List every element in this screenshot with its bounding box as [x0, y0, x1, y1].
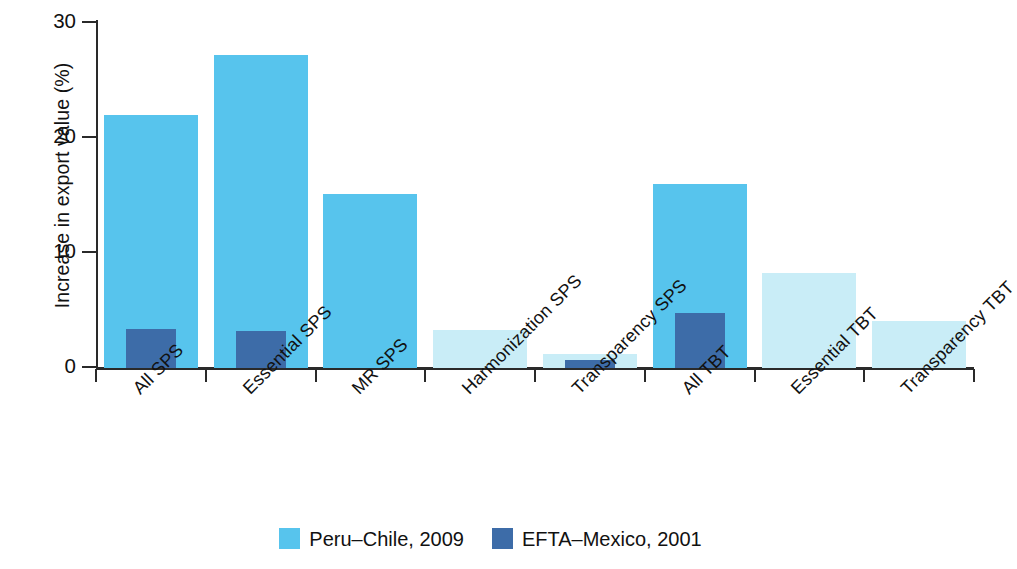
- y-axis-tick: [82, 366, 96, 368]
- legend-item: Peru–Chile, 2009: [279, 528, 464, 549]
- legend-swatch-icon: [492, 528, 513, 549]
- x-axis-tick: [534, 369, 536, 382]
- y-axis-title: Increase in export value (%): [51, 6, 74, 366]
- x-axis-tick: [863, 369, 865, 382]
- bar-series-peru-chile: [214, 55, 308, 368]
- x-axis-tick: [754, 369, 756, 382]
- legend-item: EFTA–Mexico, 2001: [492, 528, 702, 549]
- legend-swatch-icon: [279, 528, 300, 549]
- x-axis-tick: [95, 369, 97, 382]
- x-axis-tick: [644, 369, 646, 382]
- legend-label: EFTA–Mexico, 2001: [522, 529, 702, 549]
- y-axis-tick: [82, 136, 96, 138]
- x-axis-tick: [424, 369, 426, 382]
- x-axis-tick: [315, 369, 317, 382]
- x-axis-tick: [973, 369, 975, 382]
- y-axis-tick-label: 10: [18, 241, 76, 262]
- chart-legend: Peru–Chile, 2009EFTA–Mexico, 2001: [0, 528, 981, 549]
- x-axis-tick: [205, 369, 207, 382]
- y-axis-tick: [82, 21, 96, 23]
- y-axis-tick-label: 20: [18, 126, 76, 147]
- y-axis-tick-label: 30: [18, 11, 76, 32]
- y-axis-tick: [82, 251, 96, 253]
- y-axis-tick-label: 0: [18, 356, 76, 377]
- legend-label: Peru–Chile, 2009: [309, 529, 464, 549]
